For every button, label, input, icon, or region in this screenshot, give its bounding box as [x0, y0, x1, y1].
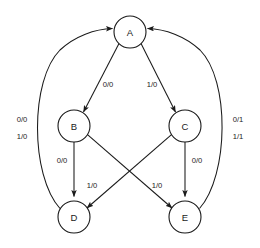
edge-a-to-b-label: 0/0 — [103, 80, 114, 89]
state-node-d-label: D — [71, 212, 78, 223]
edge-a-to-c: 1/0 — [141, 44, 176, 112]
edge-c-to-e: 0/0 — [185, 142, 202, 197]
state-node-d[interactable]: D — [58, 201, 90, 233]
state-node-e-label: E — [182, 212, 188, 223]
edge-e-to-a-label-line1: 0/1 — [233, 115, 244, 124]
state-node-b[interactable]: B — [58, 110, 90, 142]
edge-a-to-c-line — [141, 44, 176, 112]
edge-d-to-a-label-line2: 1/0 — [17, 132, 28, 141]
edge-e-to-a-label-line2: 1/1 — [233, 132, 244, 141]
state-node-c[interactable]: C — [169, 110, 201, 142]
state-node-b-label: B — [71, 121, 77, 132]
edge-a-to-b: 0/0 — [84, 44, 120, 112]
state-machine-diagram: 0/0 1/0 0/0 0/0 1/0 1/0 0/ — [0, 0, 260, 248]
edge-c-to-d-label: 1/0 — [87, 181, 98, 190]
state-node-a-label: A — [127, 27, 134, 38]
state-node-a[interactable]: A — [114, 16, 146, 48]
state-node-c-label: C — [182, 121, 189, 132]
edge-a-to-c-label: 1/0 — [147, 80, 158, 89]
edge-c-to-e-label: 0/0 — [192, 156, 203, 165]
edge-a-to-b-line — [84, 44, 120, 112]
state-diagram-container: 0/0 1/0 0/0 0/0 1/0 1/0 0/ — [0, 0, 260, 248]
edge-d-to-a-label-line1: 0/0 — [17, 115, 28, 124]
edge-b-to-d-label: 0/0 — [57, 156, 68, 165]
edge-b-to-d: 0/0 — [57, 142, 74, 197]
state-node-e[interactable]: E — [169, 201, 201, 233]
edge-b-to-e-label: 1/0 — [152, 181, 163, 190]
